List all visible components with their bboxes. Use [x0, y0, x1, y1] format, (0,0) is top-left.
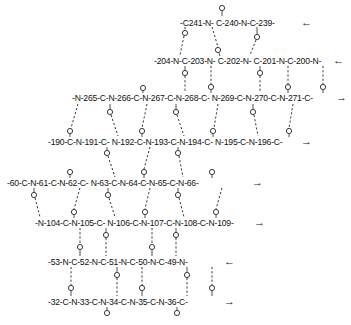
strand-7: -53-N-C-52-N-C-51-N-C-50-N-C-49-N- — [48, 257, 188, 267]
arrow-left-icon: ← — [301, 17, 312, 27]
arrow-right-icon: → — [301, 136, 312, 146]
arrow-right-icon: → — [224, 296, 235, 306]
arrow-right-icon: → — [336, 92, 347, 102]
arrow-right-icon: → — [252, 177, 263, 187]
strand-3: -N-265-C-N-266-C-N-267-C-N-268-C- N-269-… — [72, 93, 313, 103]
strand-2: -204-N-C-203-N- C-202-N- C-201-N-C-200-N… — [154, 56, 321, 66]
hydrogen-bond-layer — [0, 0, 351, 325]
strand-5: -60-C-N-61-C-N-62-C- N-63-C-N-64-C-N-65-… — [7, 178, 199, 188]
arrow-left-icon: ← — [224, 256, 235, 266]
arrow-left-icon: ← — [333, 55, 344, 65]
strand-8: -32-C-N-33-C-N-34-C-N-35-C-N-36-C- — [48, 297, 188, 307]
arrow-right-icon: → — [254, 217, 265, 227]
strand-4: -190-C-N-191-C- N-192-C-N-193-C-N-194-C-… — [48, 137, 283, 147]
strand-1: -C241-N- C-240-N-C-239- — [180, 18, 275, 28]
strand-6: -N-104-C-N-105-C- N-106-C-N-107-C-N-108-… — [35, 218, 234, 228]
